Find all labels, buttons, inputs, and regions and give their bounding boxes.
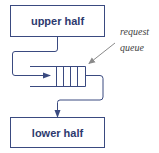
lower-half-node: lower half: [11, 118, 105, 148]
annotation-pointer: [89, 43, 115, 64]
annotation-request: request: [120, 26, 149, 37]
edge-queue-to-lower: [58, 76, 104, 118]
lower-half-label: lower half: [32, 127, 84, 139]
upper-half-node: upper half: [11, 6, 105, 37]
diagram-canvas: upper half lower half request queue: [0, 0, 159, 153]
diagram-svg: upper half lower half request queue: [0, 0, 159, 153]
annotation-queue: queue: [120, 42, 144, 53]
edge-upper-to-queue: [13, 37, 58, 76]
request-queue: [30, 67, 86, 87]
upper-half-label: upper half: [31, 15, 85, 27]
